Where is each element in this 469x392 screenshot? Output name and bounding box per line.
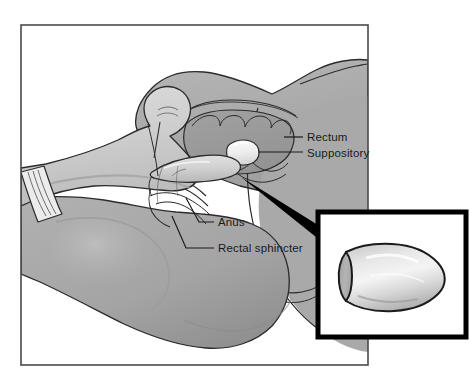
buttock-highlight [50,214,162,290]
label-text-rectal-sphincter: Rectal sphincter [218,242,303,254]
label-text-suppository: Suppository [307,147,369,159]
inset-suppository-base [339,252,352,301]
label-text-anus: Anus [218,216,245,228]
suppository-closeup-inset [318,212,466,337]
figure-root: Rectum Suppository Anus Rectal sphincter [0,0,469,392]
label-text-rectum: Rectum [307,131,348,143]
medical-illustration: Rectum Suppository Anus Rectal sphincter [0,0,469,392]
